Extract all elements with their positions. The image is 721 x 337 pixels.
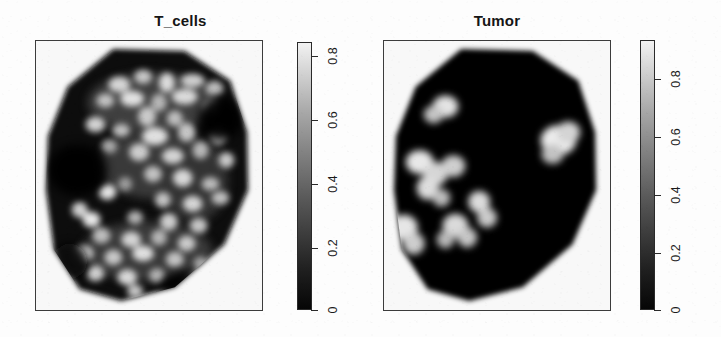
colorbar-label-t-cells-0.8: 0.8 xyxy=(326,47,340,64)
heatmap-image-tumor xyxy=(384,41,610,310)
colorbar-label-tumor-0.4: 0.4 xyxy=(669,186,683,203)
colorbar-tumor: 0.8 0.6 0.4 0.2 0 xyxy=(640,40,655,310)
colorbar-tick-t-cells-3 xyxy=(311,248,318,249)
heatmap-image-t-cells xyxy=(36,41,262,310)
colorbar-label-tumor-0.2: 0.2 xyxy=(669,244,683,261)
colorbar-tick-tumor-1 xyxy=(654,137,661,138)
panel-title-t-cells: T_cells xyxy=(0,12,361,29)
colorbar-tick-tumor-2 xyxy=(654,195,661,196)
colorbar-label-tumor-0.6: 0.6 xyxy=(669,128,683,145)
colorbar-tick-tumor-0 xyxy=(654,79,661,80)
colorbar-label-tumor-0: 0 xyxy=(669,307,683,314)
figure-container: T_cells xyxy=(0,0,721,337)
colorbar-tick-t-cells-0 xyxy=(311,56,318,57)
colorbar-label-t-cells-0: 0 xyxy=(326,307,340,314)
colorbar-tick-t-cells-2 xyxy=(311,184,318,185)
colorbar-t-cells: 0.8 0.6 0.4 0.2 0 xyxy=(297,42,312,310)
colorbar-label-t-cells-0.2: 0.2 xyxy=(326,239,340,256)
panel-tumor: Tumor xyxy=(361,0,721,337)
heatmap-frame-tumor xyxy=(383,40,611,311)
colorbar-tick-t-cells-4 xyxy=(311,310,318,311)
heatmap-frame-t-cells xyxy=(35,40,263,311)
panel-t-cells: T_cells xyxy=(0,0,361,337)
colorbar-tick-tumor-3 xyxy=(654,253,661,254)
colorbar-tick-t-cells-1 xyxy=(311,120,318,121)
colorbar-label-t-cells-0.6: 0.6 xyxy=(326,111,340,128)
colorbar-label-t-cells-0.4: 0.4 xyxy=(326,175,340,192)
panel-title-tumor: Tumor xyxy=(383,12,611,29)
colorbar-label-tumor-0.8: 0.8 xyxy=(669,70,683,87)
colorbar-tick-tumor-4 xyxy=(654,310,661,311)
